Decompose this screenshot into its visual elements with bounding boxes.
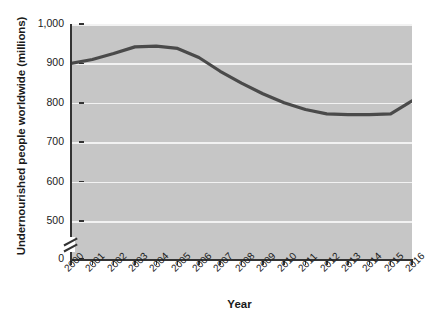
- y-axis-tick: [79, 23, 84, 25]
- y-axis-tick-label: 700: [18, 135, 64, 147]
- x-axis-title: Year: [0, 298, 427, 310]
- y-axis-tick-label: 600: [18, 175, 64, 187]
- data-series-line: [71, 24, 412, 259]
- y-axis-tick-label: 800: [18, 96, 64, 108]
- y-axis-tick-label: 500: [18, 214, 64, 226]
- line-chart: National Needs Learning Goals Undernouri…: [0, 0, 427, 320]
- y-axis-tick-label: 1,000: [18, 17, 64, 29]
- y-axis-tick-labels: 05006007008009001,000: [14, 0, 64, 320]
- y-axis-tick: [79, 141, 84, 143]
- plot-area: [71, 24, 412, 259]
- y-axis-tick: [79, 102, 84, 104]
- y-axis-tick-label: 0: [18, 252, 64, 264]
- y-axis-tick: [79, 63, 84, 65]
- y-axis-line: [70, 24, 72, 259]
- y-axis-tick: [79, 181, 84, 183]
- x-axis-title-text: Year: [227, 298, 251, 310]
- y-axis-tick-label: 900: [18, 56, 64, 68]
- y-axis-tick: [79, 220, 84, 222]
